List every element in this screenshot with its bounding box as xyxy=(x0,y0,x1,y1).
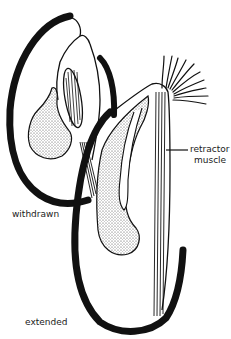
label-extended: extended xyxy=(25,317,67,327)
label-retractor-line1: retractor xyxy=(190,144,229,155)
label-retractor-line2: muscle xyxy=(190,155,229,166)
extended-polyp xyxy=(75,56,208,331)
polyp-diagram xyxy=(0,0,231,339)
withdrawn-right-wall xyxy=(100,58,114,115)
extended-retractor-muscle xyxy=(154,92,165,316)
label-withdrawn: withdrawn xyxy=(12,209,59,219)
label-retractor-muscle: retractor muscle xyxy=(190,144,229,166)
